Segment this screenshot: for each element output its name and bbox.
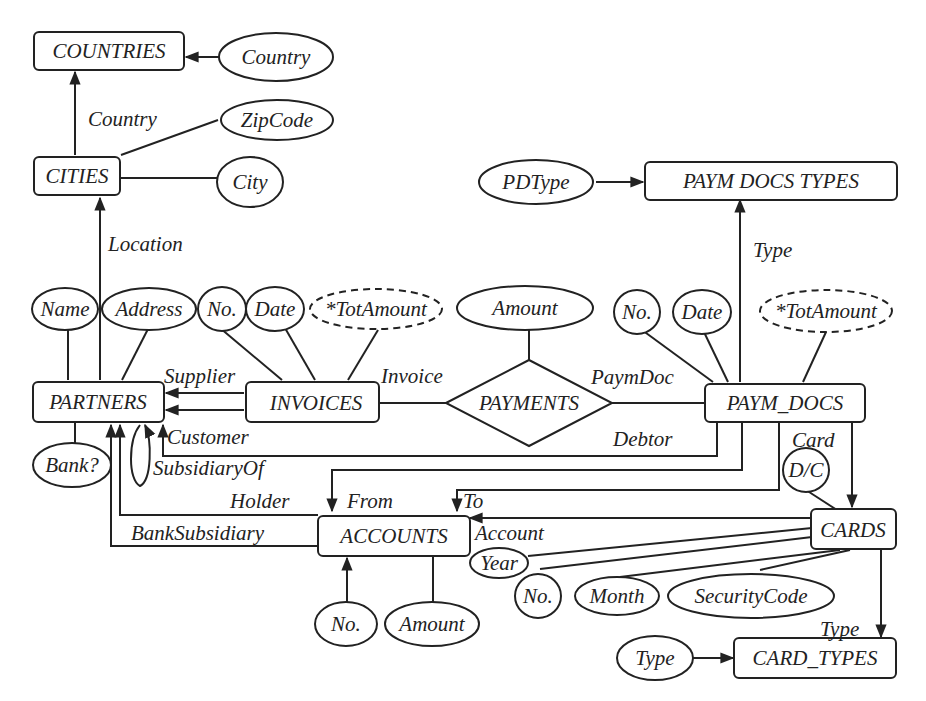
- svg-text:D/C: D/C: [787, 458, 824, 482]
- role-location: Location: [107, 232, 183, 256]
- role-paymdocs-type: Type: [753, 238, 792, 262]
- attr-paymdocs-totamount-derived[interactable]: *TotAmount: [760, 290, 892, 332]
- attr-invoices-no[interactable]: No.: [198, 287, 246, 331]
- svg-text:Year: Year: [480, 551, 519, 575]
- attr-cards-month[interactable]: Month: [575, 577, 659, 615]
- svg-text:Date: Date: [254, 297, 296, 321]
- svg-text:Month: Month: [589, 584, 645, 608]
- attr-paymdocs-no[interactable]: No.: [614, 290, 660, 334]
- entity-label: CITIES: [46, 164, 110, 188]
- entity-accounts[interactable]: ACCOUNTS: [318, 516, 470, 556]
- attr-cities-city[interactable]: City: [217, 157, 283, 207]
- attr-accounts-no[interactable]: No.: [315, 602, 377, 646]
- svg-text:No.: No.: [206, 297, 237, 321]
- entity-label: PAYM DOCS TYPES: [682, 169, 859, 193]
- role-customer: Customer: [167, 425, 250, 449]
- entity-label: PAYM_DOCS: [726, 391, 844, 415]
- attr-accounts-amount[interactable]: Amount: [385, 602, 479, 646]
- address-link: [122, 327, 149, 380]
- subsidiaryof-loop: [131, 425, 150, 486]
- entity-label: ACCOUNTS: [338, 524, 448, 548]
- inv-date-link: [285, 328, 315, 380]
- role-subsidiaryof: SubsidiaryOf: [153, 456, 267, 480]
- svg-text:SecurityCode: SecurityCode: [694, 584, 807, 608]
- role-supplier: Supplier: [164, 364, 236, 388]
- svg-text:City: City: [233, 170, 269, 194]
- attr-invoices-totamount-derived[interactable]: *TotAmount: [310, 289, 442, 329]
- svg-text:Amount: Amount: [490, 296, 558, 320]
- role-paymdoc: PaymDoc: [590, 365, 674, 389]
- cards-securitycode-link: [760, 550, 850, 570]
- entity-card-types[interactable]: CARD_TYPES: [734, 638, 896, 678]
- attr-countries-country[interactable]: Country: [219, 33, 333, 81]
- attr-invoices-date[interactable]: Date: [246, 287, 304, 331]
- svg-text:*TotAmount: *TotAmount: [325, 297, 428, 321]
- svg-text:Country: Country: [242, 45, 312, 69]
- attr-cards-no[interactable]: No.: [515, 574, 561, 618]
- entity-countries[interactable]: COUNTRIES: [34, 32, 184, 70]
- entity-cities[interactable]: CITIES: [34, 157, 120, 195]
- entity-paym-docs-types[interactable]: PAYM DOCS TYPES: [645, 162, 897, 200]
- svg-text:Amount: Amount: [397, 612, 465, 636]
- role-invoice: Invoice: [380, 364, 443, 388]
- pd-totamount-link: [803, 332, 826, 382]
- role-cards-type: Type: [820, 617, 859, 641]
- svg-text:No.: No.: [330, 612, 361, 636]
- attr-partners-address[interactable]: Address: [102, 288, 196, 330]
- svg-text:No.: No.: [522, 584, 553, 608]
- role-debtor: Debtor: [612, 427, 673, 451]
- attr-cardtypes-type[interactable]: Type: [617, 636, 693, 680]
- attr-paymdocs-date[interactable]: Date: [673, 290, 731, 334]
- role-cities-country: Country: [88, 107, 158, 131]
- role-card: Card: [792, 428, 835, 452]
- attr-cities-zipcode[interactable]: ZipCode: [221, 100, 333, 140]
- inv-totamount-link: [348, 330, 378, 380]
- svg-text:No.: No.: [621, 300, 652, 324]
- svg-text:Address: Address: [114, 297, 183, 321]
- relationship-label: PAYMENTS: [478, 391, 579, 415]
- attr-partners-bank[interactable]: Bank?: [33, 443, 111, 487]
- dc-link: [806, 490, 837, 510]
- entity-cards[interactable]: CARDS: [811, 509, 896, 549]
- er-diagram: COUNTRIES CITIES PARTNERS INVOICES PAYM_…: [0, 0, 926, 701]
- entity-invoices[interactable]: INVOICES: [246, 382, 379, 422]
- entity-label: PARTNERS: [48, 390, 147, 414]
- role-to: To: [463, 489, 483, 513]
- svg-text:PDType: PDType: [501, 170, 569, 194]
- svg-text:Name: Name: [40, 297, 90, 321]
- attr-payments-amount[interactable]: Amount: [457, 286, 593, 330]
- entity-paym-docs[interactable]: PAYM_DOCS: [705, 384, 865, 422]
- svg-text:*TotAmount: *TotAmount: [775, 299, 878, 323]
- entity-partners[interactable]: PARTNERS: [33, 382, 164, 422]
- attr-pdt-pdtype[interactable]: PDType: [479, 160, 593, 204]
- entity-label: COUNTRIES: [52, 39, 166, 63]
- svg-text:Date: Date: [681, 300, 723, 324]
- role-account: Account: [473, 521, 545, 545]
- attr-cards-year[interactable]: Year: [470, 548, 528, 578]
- role-banksubsidiary: BankSubsidiary: [131, 521, 265, 545]
- svg-text:Type: Type: [635, 646, 674, 670]
- role-from: From: [346, 489, 393, 513]
- entity-label: CARDS: [820, 518, 886, 542]
- entity-label: INVOICES: [269, 391, 363, 415]
- cards-month-link: [620, 550, 840, 577]
- role-holder: Holder: [229, 489, 290, 513]
- attr-cards-securitycode[interactable]: SecurityCode: [668, 574, 834, 618]
- entity-label: CARD_TYPES: [753, 646, 878, 670]
- svg-text:ZipCode: ZipCode: [241, 108, 313, 132]
- svg-text:Bank?: Bank?: [45, 453, 99, 477]
- pd-date-link: [703, 330, 728, 382]
- attr-partners-name[interactable]: Name: [32, 288, 98, 330]
- relationship-payments[interactable]: PAYMENTS: [446, 360, 612, 446]
- attr-paymdocs-dc[interactable]: D/C: [783, 448, 829, 492]
